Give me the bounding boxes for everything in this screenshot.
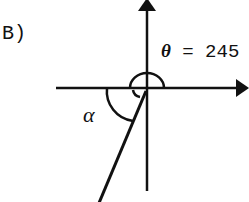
- theta-value: 245: [205, 41, 239, 63]
- theta-label: θ = 245: [161, 40, 239, 63]
- x-axis-arrow-icon: [236, 79, 249, 97]
- theta-symbol: θ: [161, 40, 171, 61]
- part-label: B): [2, 22, 26, 45]
- terminal-ray: [99, 91, 146, 202]
- alpha-arc: [107, 88, 133, 121]
- theta-equals: =: [171, 41, 205, 63]
- alpha-label: α: [83, 102, 95, 128]
- theta-arc-inner: [133, 90, 140, 97]
- y-axis-arrow-icon: [138, 0, 156, 11]
- angle-diagram: [0, 0, 249, 202]
